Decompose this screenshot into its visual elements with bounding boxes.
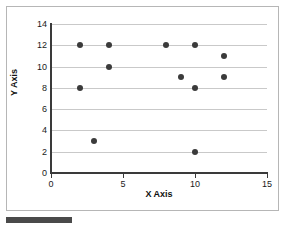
bottom-accent-bar xyxy=(6,217,72,223)
y-axis-tick-label: 2 xyxy=(42,147,47,157)
x-axis-tick-label: 10 xyxy=(190,179,200,189)
y-axis-title: Y Axis xyxy=(9,69,19,96)
data-point xyxy=(192,85,198,91)
data-point xyxy=(106,64,112,70)
scatter-plot-area xyxy=(51,24,267,173)
x-axis-tick-mark xyxy=(123,174,124,178)
data-point xyxy=(91,138,97,144)
data-point xyxy=(192,149,198,155)
data-point xyxy=(163,42,169,48)
data-point xyxy=(77,85,83,91)
data-point xyxy=(106,42,112,48)
y-axis-tick-label: 6 xyxy=(42,104,47,114)
data-point xyxy=(221,53,227,59)
x-axis-title: X Axis xyxy=(51,189,267,199)
y-axis-tick-label: 14 xyxy=(37,19,47,29)
y-axis-tick-label: 12 xyxy=(37,40,47,50)
data-point xyxy=(178,74,184,80)
data-point xyxy=(77,42,83,48)
y-axis-tick-label: 10 xyxy=(37,62,47,72)
x-axis-tick-mark xyxy=(51,174,52,178)
x-axis-tick-mark xyxy=(195,174,196,178)
x-axis-tick-label: 5 xyxy=(120,179,125,189)
data-point xyxy=(221,74,227,80)
chart-card: 02468101214 051015 X Axis Y Axis xyxy=(6,6,279,211)
y-axis-tick-label: 8 xyxy=(42,83,47,93)
y-axis-tick-label: 4 xyxy=(42,125,47,135)
x-axis-tick-mark xyxy=(267,174,268,178)
data-point xyxy=(192,42,198,48)
x-axis-tick-label: 15 xyxy=(262,179,272,189)
y-axis-tick-label: 0 xyxy=(42,168,47,178)
x-axis-tick-label: 0 xyxy=(48,179,53,189)
